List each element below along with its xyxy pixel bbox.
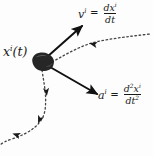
position-argument: (t) [13,44,28,59]
velocity-label: vi = dxi dt [78,3,118,24]
velocity-denominator: dt [104,13,117,24]
trajectory-arrowhead-tail [11,131,21,139]
acceleration-index: i [105,88,107,96]
trajectory-arrowhead-mid [43,88,50,97]
acceleration-numerator-index: i [139,83,141,89]
kinematics-diagram: xi(t) vi = dxi dt ai = d2xi dt2 [0,0,153,156]
acceleration-vector-arrow [50,67,97,94]
velocity-vector-arrow [47,26,82,57]
particle-blob [32,52,54,71]
acceleration-fraction: d2xi dt2 [122,84,142,105]
trajectory-future-path [52,34,150,62]
velocity-fraction: dxi dt [102,3,118,24]
position-symbol: x [3,44,10,59]
vector-canvas [0,0,153,156]
trajectory-past-path [0,70,46,145]
acceleration-numerator: d2xi [122,84,142,94]
position-label: xi(t) [3,45,27,59]
velocity-numerator: dxi [102,3,118,13]
acceleration-label: ai = d2xi dt2 [98,84,142,105]
acceleration-denominator-dt: dt [125,95,135,106]
velocity-numerator-index: i [115,2,117,8]
acceleration-equals-sign: = [109,90,119,100]
acceleration-denominator: dt2 [124,94,141,105]
acceleration-denominator-order: 2 [135,95,139,101]
velocity-equals-sign: = [89,8,99,18]
velocity-index: i [84,7,86,15]
